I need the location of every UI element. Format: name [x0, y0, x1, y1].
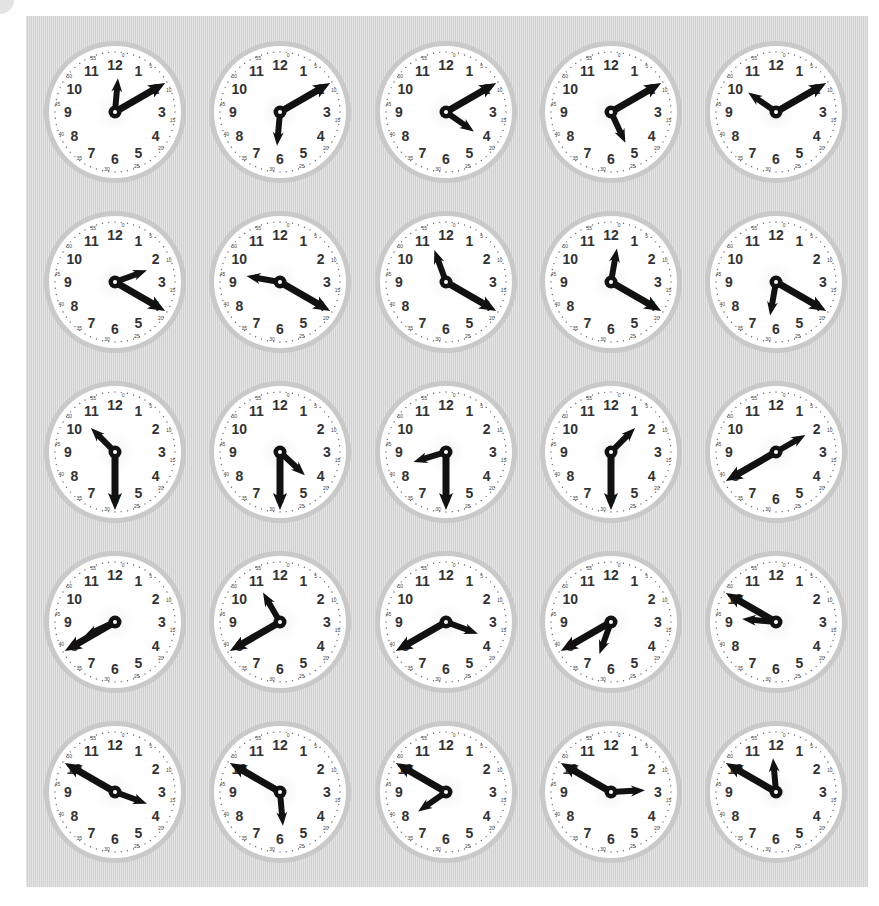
minute-label: 20: [654, 145, 660, 151]
clock-11: 1212345678910110510152025303540455055: [41, 378, 189, 526]
minute-label: 25: [134, 163, 140, 169]
hour-number: 1: [631, 63, 639, 79]
hour-number: 11: [249, 63, 264, 79]
hour-number: 4: [648, 808, 656, 824]
minute-label: 30: [269, 336, 275, 342]
hour-number: 3: [323, 444, 331, 460]
minute-label: 45: [551, 271, 557, 277]
minute-label: 5: [480, 63, 483, 69]
minute-label: 55: [90, 395, 96, 401]
hour-number: 3: [819, 104, 827, 120]
minute-label: 55: [751, 55, 757, 61]
hour-number: 8: [70, 298, 78, 314]
hour-number: 7: [419, 655, 427, 671]
hour-number: 12: [107, 737, 123, 753]
minute-label: 55: [255, 395, 261, 401]
hour-number: 10: [232, 421, 248, 437]
clock-22: 1212345678910110510152025303540455055: [206, 718, 354, 866]
minute-label: 0: [783, 52, 786, 58]
minute-label: 0: [453, 52, 456, 58]
minute-label: 55: [255, 55, 261, 61]
minute-label: 0: [287, 52, 290, 58]
minute-label: 45: [55, 101, 61, 107]
minute-label: 50: [398, 753, 404, 759]
minute-label: 35: [738, 495, 744, 501]
minute-label: 30: [765, 336, 771, 342]
minute-label: 40: [223, 811, 229, 817]
minute-label: 35: [77, 835, 83, 841]
minute-label: 5: [314, 63, 317, 69]
minute-label: 0: [618, 392, 621, 398]
minute-label: 30: [269, 506, 275, 512]
hour-number: 8: [401, 808, 409, 824]
hour-number: 2: [483, 591, 491, 607]
hour-number: 9: [725, 274, 733, 290]
minute-label: 10: [827, 257, 833, 263]
hour-number: 10: [67, 251, 83, 267]
minute-label: 10: [331, 257, 337, 263]
hour-number: 1: [300, 403, 308, 419]
minute-label: 20: [654, 825, 660, 831]
minute-label: 25: [299, 163, 305, 169]
minute-label: 30: [104, 506, 110, 512]
hour-number: 12: [272, 57, 288, 73]
hour-number: 4: [483, 468, 491, 484]
hour-number: 11: [415, 573, 430, 589]
minute-label: 15: [666, 797, 672, 803]
hour-number: 12: [768, 57, 784, 73]
hour-number: 10: [232, 591, 248, 607]
clock-23: 1212345678910110510152025303540455055: [372, 718, 520, 866]
hour-number: 11: [249, 573, 264, 589]
minute-label: 0: [287, 392, 290, 398]
minute-label: 40: [58, 641, 64, 647]
clock-8: 1212345678910110510152025303540455055: [372, 208, 520, 356]
hour-number: 3: [819, 444, 827, 460]
hour-number: 10: [67, 591, 83, 607]
hour-number: 4: [648, 638, 656, 654]
minute-label: 50: [563, 73, 569, 79]
hour-number: 2: [813, 591, 821, 607]
minute-label: 45: [551, 441, 557, 447]
minute-label: 10: [166, 597, 172, 603]
hour-number: 6: [442, 321, 450, 337]
minute-label: 45: [386, 611, 392, 617]
minute-label: 25: [299, 503, 305, 509]
minute-label: 25: [134, 843, 140, 849]
hour-number: 10: [232, 251, 248, 267]
minute-label: 50: [728, 73, 734, 79]
minute-label: 20: [158, 825, 164, 831]
minute-label: 50: [67, 413, 73, 419]
hour-number: 12: [768, 397, 784, 413]
minute-label: 10: [827, 87, 833, 93]
minute-label: 50: [563, 753, 569, 759]
hour-number: 6: [772, 321, 780, 337]
minute-label: 20: [323, 825, 329, 831]
minute-label: 25: [630, 673, 636, 679]
hour-number: 4: [483, 128, 491, 144]
minute-label: 25: [299, 333, 305, 339]
minute-label: 50: [563, 583, 569, 589]
minute-label: 25: [795, 503, 801, 509]
clock-3: 1212345678910110510152025303540455055: [372, 38, 520, 186]
hour-number: 10: [398, 421, 414, 437]
minute-label: 55: [751, 225, 757, 231]
clock-20: 1212345678910110510152025303540455055: [702, 548, 850, 696]
minute-label: 15: [666, 117, 672, 123]
minute-label: 35: [77, 665, 83, 671]
hour-number: 1: [135, 573, 143, 589]
hour-number: 11: [415, 743, 430, 759]
minute-label: 10: [166, 427, 172, 433]
hour-number: 12: [272, 737, 288, 753]
minute-label: 5: [480, 743, 483, 749]
hour-number: 11: [745, 743, 760, 759]
minute-label: 55: [90, 225, 96, 231]
hour-number: 12: [438, 567, 454, 583]
hour-number: 12: [603, 567, 619, 583]
minute-label: 40: [223, 471, 229, 477]
hour-number: 8: [731, 808, 739, 824]
hour-number: 7: [749, 655, 757, 671]
hour-number: 6: [607, 831, 615, 847]
minute-label: 0: [618, 732, 621, 738]
clock-10: 1212345678910110510152025303540455055: [702, 208, 850, 356]
hour-number: 11: [580, 233, 595, 249]
